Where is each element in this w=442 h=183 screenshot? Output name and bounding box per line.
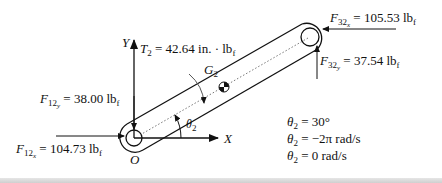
- bottom-divider: [0, 178, 442, 183]
- cg-label: G2: [204, 63, 218, 79]
- theta-arc: [175, 115, 181, 138]
- pin-A: [301, 28, 319, 46]
- f32x-label: F32x = 105.53 lbf: [330, 11, 416, 29]
- f12x-label: F12x = 104.73 lbf: [16, 142, 102, 160]
- condition-omega: θ˙2 = −2π rad/s: [287, 132, 361, 148]
- f32y-label: F32y = 37.54 lbf: [320, 54, 400, 72]
- x-axis-label: X: [224, 132, 232, 145]
- y-axis-label: Y: [122, 36, 129, 49]
- condition-theta: θ2 = 30°: [287, 115, 330, 131]
- cg-symbol-icon: [219, 82, 229, 92]
- theta2-label: θ2: [186, 118, 196, 133]
- condition-alpha: θ¨2 = 0 rad/s: [287, 149, 347, 165]
- torque-arrow: [189, 74, 204, 103]
- origin-label: O: [130, 153, 139, 166]
- torque-label: T2 = 42.64 in. · lbf: [140, 42, 235, 58]
- f12y-label: F12y = 38.00 lbf: [40, 92, 120, 110]
